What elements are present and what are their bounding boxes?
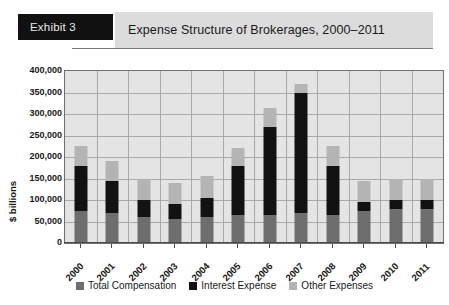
x-axis-slot: 2002 xyxy=(127,244,159,278)
bar-segment xyxy=(200,176,213,198)
legend-swatch-icon xyxy=(76,282,84,290)
bar-slot xyxy=(254,71,286,243)
stacked-bar[interactable] xyxy=(295,84,308,243)
y-axis-tick-label: 100,000 xyxy=(29,194,62,204)
x-axis-tick-mark xyxy=(143,244,144,248)
y-axis-tick-label: 350,000 xyxy=(29,87,62,97)
plot-area xyxy=(64,70,444,244)
bar-segment xyxy=(358,211,371,243)
bar-slot xyxy=(223,71,255,243)
stacked-bar[interactable] xyxy=(263,108,276,243)
x-axis-tick-labels: 2000200120022003200420052006200720082009… xyxy=(64,244,442,278)
bar-segment xyxy=(421,209,434,243)
bar-series-group xyxy=(65,71,443,243)
stacked-bar[interactable] xyxy=(358,181,371,243)
bar-segment xyxy=(74,166,87,211)
legend-label: Interest Expense xyxy=(201,280,276,291)
bar-segment xyxy=(295,213,308,243)
bar-segment xyxy=(326,146,339,165)
stacked-bar[interactable] xyxy=(137,179,150,243)
x-axis-slot: 2000 xyxy=(64,244,96,278)
bar-segment xyxy=(389,200,402,209)
y-axis-tick-label: 0 xyxy=(57,237,62,247)
x-axis-line xyxy=(64,242,444,243)
y-axis-tick-label: 150,000 xyxy=(29,173,62,183)
x-axis-tick-mark xyxy=(80,244,81,248)
bar-segment xyxy=(295,93,308,213)
bar-segment xyxy=(295,84,308,93)
x-axis-slot: 2009 xyxy=(348,244,380,278)
x-axis-slot: 2008 xyxy=(316,244,348,278)
x-axis-slot: 2006 xyxy=(253,244,285,278)
y-axis-tick-labels: 050,000100,000150,000200,000250,000300,0… xyxy=(12,70,62,242)
legend-item[interactable]: Other Expenses xyxy=(289,280,373,291)
bar-segment xyxy=(263,108,276,127)
bar-segment xyxy=(421,200,434,209)
bar-segment xyxy=(200,217,213,243)
y-axis-tick-label: 400,000 xyxy=(29,65,62,75)
bar-segment xyxy=(421,179,434,201)
bar-slot xyxy=(286,71,318,243)
x-axis-slot: 2005 xyxy=(222,244,254,278)
bar-segment xyxy=(358,202,371,211)
bar-segment xyxy=(232,148,245,165)
bar-segment xyxy=(263,127,276,215)
page-title: Expense Structure of Brokerages, 2000–20… xyxy=(128,23,385,37)
stacked-bar[interactable] xyxy=(200,176,213,243)
exhibit-number-label: Exhibit 3 xyxy=(30,21,76,33)
legend-swatch-icon xyxy=(289,282,297,290)
x-axis-tick-mark xyxy=(426,244,427,248)
bar-segment xyxy=(169,219,182,243)
bar-segment xyxy=(169,183,182,205)
bar-segment xyxy=(326,215,339,243)
y-axis-tick-label: 250,000 xyxy=(29,130,62,140)
bar-slot xyxy=(65,71,97,243)
bar-segment xyxy=(137,200,150,217)
bar-segment xyxy=(232,215,245,243)
exhibit-number-tab: Exhibit 3 xyxy=(18,14,113,40)
legend-label: Total Compensation xyxy=(88,280,176,291)
legend-item[interactable]: Interest Expense xyxy=(189,280,276,291)
x-axis-slot: 2011 xyxy=(411,244,443,278)
x-axis-tick-mark xyxy=(300,244,301,248)
bar-segment xyxy=(389,209,402,243)
bar-segment xyxy=(74,146,87,165)
stacked-bar[interactable] xyxy=(326,146,339,243)
x-axis-tick-mark xyxy=(363,244,364,248)
stacked-bar[interactable] xyxy=(389,179,402,243)
stacked-bar[interactable] xyxy=(169,183,182,243)
bar-slot xyxy=(349,71,381,243)
legend-item[interactable]: Total Compensation xyxy=(76,280,176,291)
bar-segment xyxy=(389,179,402,201)
bar-slot xyxy=(97,71,129,243)
bar-segment xyxy=(326,166,339,215)
stacked-bar[interactable] xyxy=(106,161,119,243)
y-axis-tick-label: 300,000 xyxy=(29,108,62,118)
x-axis-tick-mark xyxy=(111,244,112,248)
bar-segment xyxy=(74,211,87,243)
x-axis-tick-mark xyxy=(269,244,270,248)
x-axis-slot: 2007 xyxy=(285,244,317,278)
x-axis-tick-mark xyxy=(395,244,396,248)
bar-slot xyxy=(128,71,160,243)
bar-segment xyxy=(106,213,119,243)
stacked-bar[interactable] xyxy=(421,179,434,243)
x-axis-tick-mark xyxy=(237,244,238,248)
x-axis-slot: 2003 xyxy=(159,244,191,278)
bar-slot xyxy=(380,71,412,243)
chart-container: $ billions 050,000100,000150,000200,0002… xyxy=(0,58,449,305)
legend-label: Other Expenses xyxy=(301,280,373,291)
y-axis-tick-label: 200,000 xyxy=(29,151,62,161)
bar-segment xyxy=(137,217,150,243)
bar-slot xyxy=(317,71,349,243)
header-divider xyxy=(72,48,433,49)
x-axis-slot: 2010 xyxy=(379,244,411,278)
exhibit-header: Exhibit 3 Expense Structure of Brokerage… xyxy=(0,0,449,58)
bar-segment xyxy=(106,181,119,213)
stacked-bar[interactable] xyxy=(74,146,87,243)
bar-slot xyxy=(412,71,444,243)
x-axis-tick-mark xyxy=(206,244,207,248)
x-axis-slot: 2004 xyxy=(190,244,222,278)
legend-swatch-icon xyxy=(189,282,197,290)
stacked-bar[interactable] xyxy=(232,148,245,243)
